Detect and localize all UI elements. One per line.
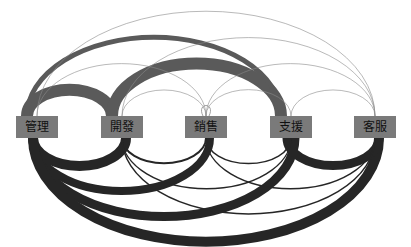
- node-sales[interactable]: 銷售: [185, 116, 227, 138]
- node-cs[interactable]: 客服: [354, 116, 396, 138]
- node-mgmt[interactable]: 管理: [16, 116, 58, 138]
- edge-arc: [122, 90, 206, 116]
- node-support[interactable]: 支援: [270, 116, 312, 138]
- edge-arc: [122, 138, 206, 163]
- node-dev[interactable]: 開發: [101, 116, 143, 138]
- edge-arc: [206, 138, 291, 164]
- edge-arc: [291, 90, 375, 116]
